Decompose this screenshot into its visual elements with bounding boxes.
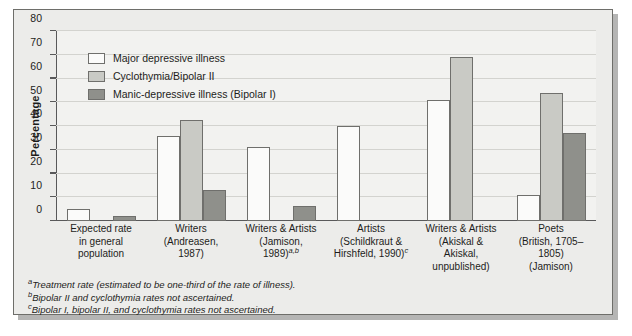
footnote-marker: c [404,246,408,255]
y-tick-label: 20 [30,155,42,167]
legend-item: Manic-depressive illness (Bipolar I) [88,88,276,100]
bar [67,209,90,221]
y-tick-label: 70 [30,36,42,48]
legend-item: Major depressive illness [88,52,276,64]
x-axis-label-line: (British, 1705–1805) [508,236,594,261]
x-axis-label-line: 1989)a,b [238,248,324,261]
y-axis-title-text: Percentage [29,95,41,156]
x-axis-label-line: Hirshfeld, 1990)c [328,248,414,261]
y-tick-label: 10 [30,179,42,191]
footnote: bBipolar II and cyclothymia rates not as… [28,292,588,305]
footnote: aTreatment rate (estimated to be one-thi… [28,279,588,292]
x-axis-labels: Expected ratein generalpopulationWriters… [56,223,596,273]
y-tick-label: 0 [36,203,42,215]
bar [517,195,540,221]
x-axis-label-line: unpublished) [418,261,504,274]
x-axis-label-line: (Jamison) [508,261,594,274]
x-axis-label-line: population [58,248,144,261]
x-axis-label: Writers & Artists(Jamison,1989)a,b [236,223,326,273]
x-axis-label-line: Expected rate [58,223,144,236]
x-axis-label: Expected ratein generalpopulation [56,223,146,273]
legend-item: Cyclothymia/Bipolar II [88,70,276,82]
bar [113,216,136,221]
x-axis-label-line: (Andreasen, [148,236,234,249]
x-axis-label-line: Writers & Artists [238,223,324,236]
x-axis-label-line: Writers & Artists [418,223,504,236]
y-tick-label: 60 [30,60,42,72]
x-axis-label-line: Artists [328,223,414,236]
chart-frame: Percentage 01020304050607080 Major depre… [13,9,613,315]
bar-group [506,31,596,221]
footnote: cBipolar I, bipolar II, and cyclothymia … [28,304,588,317]
bar [203,190,226,221]
x-axis-label: Poets(British, 1705–1805)(Jamison) [506,223,596,273]
bar [247,147,270,221]
chart-legend: Major depressive illnessCyclothymia/Bipo… [88,52,276,100]
bar [180,120,203,221]
x-axis-label-line: in general [58,236,144,249]
x-axis-label: Artists(Schildkraut &Hirshfeld, 1990)c [326,223,416,273]
x-axis-label-line: Poets [508,223,594,236]
bar [450,57,473,221]
x-axis-label-line: Writers [148,223,234,236]
legend-label: Manic-depressive illness (Bipolar I) [113,88,276,100]
footnote-text: Bipolar I, bipolar II, and cyclothymia r… [32,304,276,315]
legend-label: Major depressive illness [113,52,225,64]
x-axis-label-line: (Schildkraut & [328,236,414,249]
x-axis-label: Writers(Andreasen,1987) [146,223,236,273]
footnote-text: Bipolar II and cyclothymia rates not asc… [32,292,234,303]
bar [540,93,563,221]
legend-label: Cyclothymia/Bipolar II [113,70,215,82]
footnote-text: Treatment rate (estimated to be one-thir… [32,279,295,290]
bar-group [416,31,506,221]
figure-root: Percentage 01020304050607080 Major depre… [0,0,632,336]
legend-swatch [88,89,105,100]
x-axis-label-line: Akiskal, [418,248,504,261]
bar [157,136,180,222]
footnote-marker: a,b [289,246,299,255]
y-tick-label: 50 [30,84,42,96]
x-axis-label-line: (Akiskal & [418,236,504,249]
bar [293,206,316,221]
y-tick-label: 40 [30,107,42,119]
x-axis-label-line: 1987) [148,248,234,261]
x-axis-label-line: (Jamison, [238,236,324,249]
bar [337,126,360,221]
x-axis-label: Writers & Artists(Akiskal &Akiskal,unpub… [416,223,506,273]
bar-group [326,31,416,221]
bar [563,133,586,221]
legend-swatch [88,53,105,64]
legend-swatch [88,71,105,82]
bar [427,100,450,221]
y-tick-label: 80 [30,12,42,24]
y-tick-label: 30 [30,131,42,143]
chart-footnotes: aTreatment rate (estimated to be one-thi… [28,279,588,317]
